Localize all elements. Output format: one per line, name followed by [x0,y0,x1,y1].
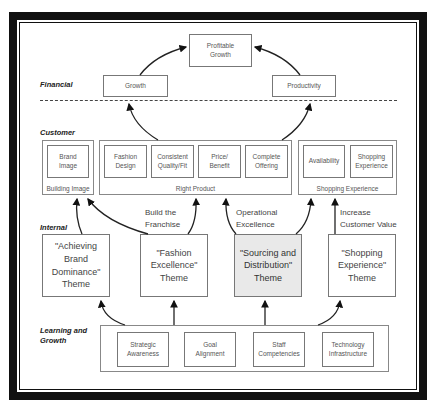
arrow-learning-to-brand-theme [101,301,125,325]
arrow-learning-to-shopping-theme [318,301,340,325]
arrow-growth-to-profitable [140,47,186,75]
arrow-sourcing-theme-to-shopping-exp [296,199,311,234]
arrow-fashion-theme-to-right-product [188,199,196,234]
arrow-brand-theme-to-building-image [77,199,82,234]
arrow-rightproduct-to-growth [129,104,158,140]
arrow-rightproduct-to-productivity [282,104,310,140]
arrow-fashion-theme-to-building-image [88,199,148,234]
arrow-sourcing-theme-to-right-product [226,199,236,234]
arrows-layer [0,0,437,412]
arrow-productivity-to-profitable [255,47,300,75]
